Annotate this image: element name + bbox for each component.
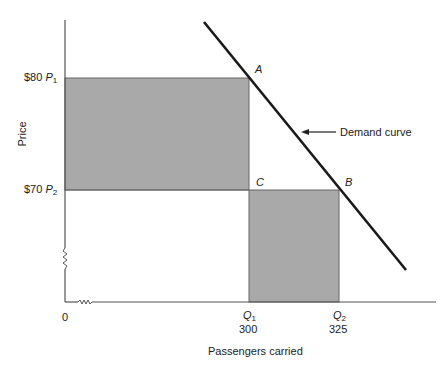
x-tick-q2-value: 325 [329, 323, 347, 335]
q2-subscript: 2 [342, 314, 346, 323]
shaded-area-quantity-band [249, 190, 339, 302]
y-axis-break [63, 248, 67, 269]
q1-subscript: 1 [252, 314, 256, 323]
point-a-label: A [255, 63, 262, 75]
point-c-label: C [256, 176, 264, 188]
p1-symbol: P [45, 71, 52, 83]
demand-curve-label: Demand curve [340, 126, 412, 138]
y-axis-title: Price [16, 114, 28, 154]
demand-arrow-icon [301, 129, 336, 135]
q2-symbol: Q [333, 309, 342, 321]
p2-value: $70 [24, 183, 42, 195]
p2-symbol: P [45, 183, 52, 195]
y-tick-p2: $70 P2 [24, 183, 57, 199]
y-tick-p1: $80 P1 [24, 71, 57, 87]
p2-subscript: 2 [53, 188, 57, 197]
x-tick-origin: 0 [62, 311, 68, 323]
x-tick-q1-value: 300 [239, 323, 257, 335]
p1-subscript: 1 [53, 76, 57, 85]
shaded-area-price-band [65, 78, 249, 190]
point-b-label: B [345, 176, 352, 188]
x-axis-break [78, 300, 92, 304]
p1-value: $80 [24, 71, 42, 83]
x-axis-title: Passengers carried [208, 345, 303, 357]
q1-symbol: Q [243, 309, 252, 321]
